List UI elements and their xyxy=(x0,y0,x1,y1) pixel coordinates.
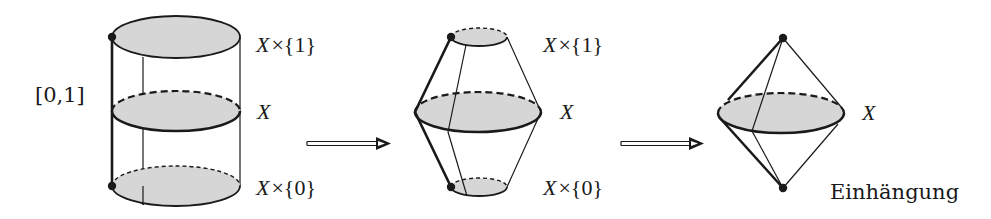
arrow-2 xyxy=(621,137,704,150)
pinched-cylinder-panel: X×{1} X X×{0} xyxy=(415,28,603,200)
suspension-diagram: .thin { stroke: #1a1a1a; stroke-width: 1… xyxy=(0,0,991,219)
middle-label: X xyxy=(861,100,877,125)
arrow-1 xyxy=(307,137,391,150)
bottom-label: X×{0} xyxy=(542,175,603,200)
caption-einhaengung: Einhängung xyxy=(830,180,959,204)
suspension-panel: X Einhängung xyxy=(718,34,959,204)
upper-thick-edge xyxy=(728,38,783,100)
middle-label: X xyxy=(559,99,575,124)
cylinder-panel: [0,1] X×{1} X X×{0} xyxy=(35,16,316,206)
interval-label: [0,1] xyxy=(35,83,85,107)
endpoint-dot-top xyxy=(447,33,455,41)
endpoint-dot-bottom xyxy=(447,183,455,191)
apex-dot-bottom xyxy=(779,184,787,192)
endpoint-dot-bottom xyxy=(108,182,116,190)
bottom-label: X×{0} xyxy=(255,175,316,200)
top-label: X×{1} xyxy=(255,32,316,57)
endpoint-dot-top xyxy=(108,33,116,41)
top-label: X×{1} xyxy=(542,32,603,57)
middle-label: X xyxy=(256,99,272,124)
apex-dot-top xyxy=(779,34,787,42)
